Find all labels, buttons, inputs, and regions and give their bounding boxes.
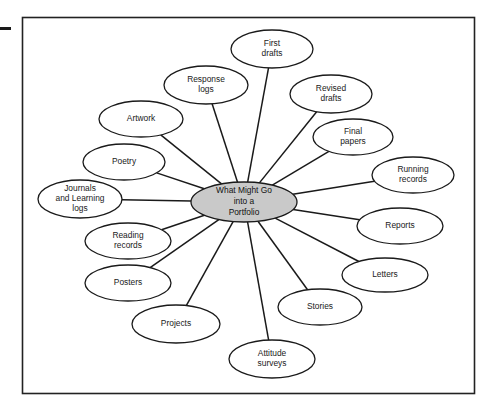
node-label-attitude-surveys: Attitudesurveys xyxy=(258,348,287,368)
node-label-letters: Letters xyxy=(372,269,398,279)
node-label-stories: Stories xyxy=(307,301,333,311)
node-letters[interactable]: Letters xyxy=(342,258,428,292)
node-label-running-records: Runningrecords xyxy=(397,164,429,184)
node-label-final-papers: Finalpapers xyxy=(340,126,366,146)
node-reading-records[interactable]: Readingrecords xyxy=(85,223,171,259)
edge-center-to-response-logs xyxy=(212,104,237,182)
edge-center-to-reading-records xyxy=(162,215,205,229)
node-label-reading-records: Readingrecords xyxy=(112,230,144,250)
edge-center-to-running-records xyxy=(293,181,375,194)
edge-center-to-poetry xyxy=(157,173,205,189)
node-posters[interactable]: Posters xyxy=(85,265,171,301)
node-center-portfolio[interactable]: What Might Gointo aPortfolio xyxy=(191,182,297,222)
node-running-records[interactable]: Runningrecords xyxy=(372,157,454,193)
node-stories[interactable]: Stories xyxy=(278,289,362,325)
node-reports[interactable]: Reports xyxy=(357,208,443,244)
node-final-papers[interactable]: Finalpapers xyxy=(313,119,393,155)
edge-center-to-revised-drafts xyxy=(259,112,316,183)
node-projects[interactable]: Projects xyxy=(132,305,220,343)
node-label-reports: Reports xyxy=(385,220,414,230)
left-edge-tick-mark xyxy=(0,27,11,30)
node-first-drafts[interactable]: Firstdrafts xyxy=(231,30,313,68)
node-response-logs[interactable]: Responselogs xyxy=(164,66,248,104)
portfolio-concept-map: FirstdraftsResponselogsReviseddraftsArtw… xyxy=(0,0,490,414)
node-label-projects: Projects xyxy=(161,318,191,328)
edge-center-to-projects xyxy=(186,222,233,306)
node-poetry[interactable]: Poetry xyxy=(83,144,165,180)
node-label-first-drafts: Firstdrafts xyxy=(262,38,283,58)
node-attitude-surveys[interactable]: Attitudesurveys xyxy=(229,340,315,378)
node-revised-drafts[interactable]: Reviseddrafts xyxy=(290,75,372,113)
node-journals-and-learning-logs[interactable]: Journalsand Learninglogs xyxy=(38,180,122,218)
figure-root: FirstdraftsResponselogsReviseddraftsArtw… xyxy=(0,0,490,414)
edge-center-to-letters xyxy=(275,218,359,261)
edge-center-to-attitude-surveys xyxy=(248,222,269,340)
node-label-poetry: Poetry xyxy=(112,156,137,166)
edge-center-to-first-drafts xyxy=(248,68,269,182)
node-label-artwork: Artwork xyxy=(127,113,156,123)
node-label-posters: Posters xyxy=(114,277,142,287)
edge-center-to-reports xyxy=(293,210,360,220)
node-artwork[interactable]: Artwork xyxy=(99,101,183,137)
edge-center-to-journals-and-learning-logs xyxy=(122,200,191,201)
